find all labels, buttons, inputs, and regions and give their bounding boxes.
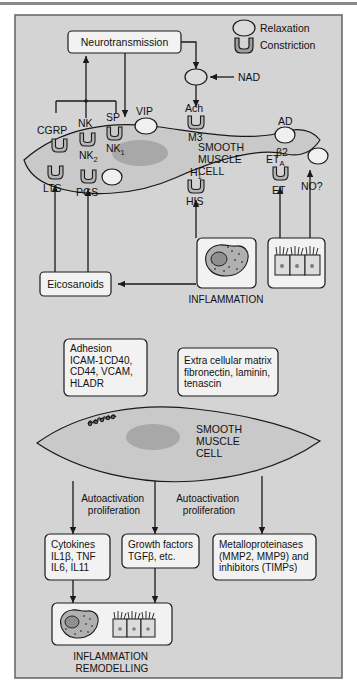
ligand-no-label: NO? (301, 180, 323, 192)
ligand-ad-label: AD (278, 115, 293, 127)
autoactivation-left-label: Autoactivation proliferation (81, 493, 147, 516)
top-rule (0, 2, 357, 5)
nad-relaxation-oval (185, 69, 207, 85)
bracket-junction-dot (84, 99, 88, 103)
ligand-sp-label: SP (106, 111, 120, 123)
ligand-nk-label: NK (78, 117, 93, 129)
neurotransmission-label: Neurotransmission (81, 36, 169, 48)
nad-label: NAD (238, 71, 261, 83)
inflammation-label: INFLAMMATION (189, 294, 264, 305)
receptor-no (308, 148, 328, 164)
legend-relaxation-label: Relaxation (260, 22, 310, 34)
receptor-vip (135, 118, 157, 134)
ligand-lts-label: LTS (43, 182, 61, 194)
eicosanoids-label: Eicosanoids (47, 278, 104, 290)
ligand-vip-label: VIP (136, 105, 153, 117)
ligand-his-label: HIS (186, 195, 204, 207)
receptor-beta2 (275, 127, 295, 143)
ligand-et-label: ET (272, 184, 286, 196)
legend-relaxation-icon (233, 20, 255, 36)
outcome-cell-nucleus (65, 616, 79, 628)
inflammatory-cell-nucleus (211, 252, 227, 266)
cell-nucleus-bottom (126, 424, 180, 450)
legend-constriction-label: Constriction (260, 39, 316, 51)
autoactivation-right-label: Autoactivation proliferation (176, 493, 242, 516)
outcome-label: INFLAMMATION REMODELLING (73, 651, 151, 674)
ligand-ach-label: Ach (185, 102, 203, 114)
ligand-cgrp-label: CGRP (37, 124, 67, 136)
ligand-pgs-label: PGS (76, 186, 98, 198)
receptor-pgs-relaxation (102, 169, 122, 185)
figure-canvas: Relaxation Constriction Neurotransmissio… (0, 0, 357, 692)
